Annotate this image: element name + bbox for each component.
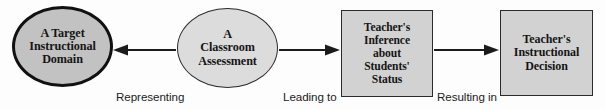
node-teacher-instructional-decision: Teacher's Instructional Decision bbox=[500, 10, 593, 96]
arrow-resulting-in bbox=[434, 45, 499, 56]
node-teacher-instructional-decision-label: Teacher's Instructional Decision bbox=[512, 33, 581, 73]
node-target-instructional-domain: A Target Instructional Domain bbox=[12, 6, 113, 87]
arrow-leading-to bbox=[279, 45, 340, 56]
edge-label-resulting-in: Resulting in bbox=[437, 90, 497, 103]
edge-label-leading-to: Leading to bbox=[283, 90, 337, 103]
node-target-instructional-domain-label: A Target Instructional Domain bbox=[27, 27, 97, 67]
node-teacher-inference-label: Teacher's Inference about Students' Stat… bbox=[362, 21, 412, 86]
diagram-canvas: A Target Instructional Domain A Classroo… bbox=[0, 0, 605, 109]
node-teacher-inference-about-students-status: Teacher's Inference about Students' Stat… bbox=[341, 10, 433, 97]
node-classroom-assessment-label: A Classroom Assessment bbox=[196, 28, 259, 68]
node-classroom-assessment: A Classroom Assessment bbox=[177, 8, 278, 88]
arrow-representing bbox=[113, 45, 176, 56]
edge-label-representing: Representing bbox=[116, 90, 184, 103]
